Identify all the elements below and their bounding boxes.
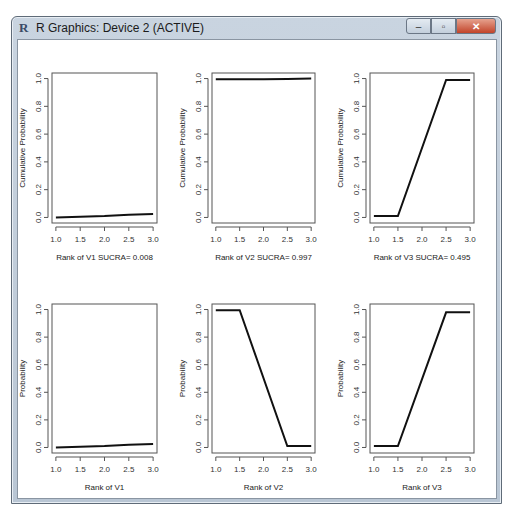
y-tick-label: 1.0 bbox=[34, 72, 43, 84]
y-tick-label: 0.4 bbox=[352, 386, 361, 398]
x-tick-label: 1.5 bbox=[392, 465, 404, 474]
x-axis: 1.01.52.02.53.0 bbox=[368, 457, 476, 474]
y-tick-label: 0.4 bbox=[34, 386, 43, 398]
plot-frame bbox=[212, 73, 315, 223]
plot-panel: 1.01.52.02.53.00.00.20.40.60.81.0Rank of… bbox=[178, 303, 317, 492]
plot-panel: 1.01.52.02.53.00.00.20.40.60.81.0Rank of… bbox=[18, 72, 159, 262]
y-tick-label: 0.0 bbox=[352, 211, 361, 223]
x-tick-label: 2.0 bbox=[416, 235, 428, 244]
x-tick-label: 2.5 bbox=[282, 235, 294, 244]
x-tick-label: 2.5 bbox=[123, 465, 135, 474]
y-tick-label: 0.8 bbox=[34, 100, 43, 112]
x-axis-label: Rank of V3 bbox=[402, 483, 442, 492]
x-tick-label: 1.5 bbox=[234, 235, 246, 244]
data-line bbox=[216, 310, 311, 446]
y-tick-label: 1.0 bbox=[194, 303, 203, 315]
x-tick-label: 1.0 bbox=[50, 465, 62, 474]
y-axis-label: Probability bbox=[18, 360, 27, 397]
x-tick-label: 2.5 bbox=[282, 465, 294, 474]
plot-frame bbox=[52, 304, 157, 453]
y-axis-label: Probability bbox=[336, 360, 345, 397]
x-tick-label: 2.0 bbox=[99, 235, 111, 244]
y-axis-label: Cumulative Probability bbox=[336, 108, 345, 188]
x-tick-label: 3.0 bbox=[465, 235, 477, 244]
y-tick-label: 0.2 bbox=[194, 414, 203, 426]
y-tick-label: 0.8 bbox=[352, 331, 361, 343]
x-tick-label: 1.5 bbox=[234, 465, 246, 474]
x-axis-label: Rank of V1 SUCRA= 0.008 bbox=[56, 253, 153, 262]
plot-panel: 1.01.52.02.53.00.00.20.40.60.81.0Rank of… bbox=[18, 303, 159, 492]
y-axis: 0.00.20.40.60.81.0 bbox=[194, 303, 208, 453]
x-tick-label: 2.5 bbox=[441, 235, 453, 244]
x-tick-label: 2.5 bbox=[441, 465, 453, 474]
y-tick-label: 1.0 bbox=[352, 72, 361, 84]
data-line bbox=[56, 444, 153, 448]
y-tick-label: 0.2 bbox=[194, 184, 203, 196]
y-axis: 0.00.20.40.60.81.0 bbox=[352, 72, 366, 223]
y-tick-label: 0.0 bbox=[194, 441, 203, 453]
y-tick-label: 0.0 bbox=[34, 211, 43, 223]
y-tick-label: 0.8 bbox=[194, 100, 203, 112]
y-tick-label: 0.0 bbox=[352, 441, 361, 453]
x-tick-label: 1.0 bbox=[210, 235, 222, 244]
plot-grid: 1.01.52.02.53.00.00.20.40.60.81.0Rank of… bbox=[0, 0, 510, 517]
y-tick-label: 0.6 bbox=[194, 128, 203, 140]
x-axis-label: Rank of V1 bbox=[85, 483, 125, 492]
x-tick-label: 3.0 bbox=[148, 235, 160, 244]
y-tick-label: 0.0 bbox=[34, 441, 43, 453]
y-tick-label: 0.2 bbox=[34, 184, 43, 196]
y-tick-label: 0.4 bbox=[352, 156, 361, 168]
data-line bbox=[216, 79, 311, 80]
y-tick-label: 0.4 bbox=[34, 156, 43, 168]
x-axis: 1.01.52.02.53.0 bbox=[50, 227, 159, 244]
x-tick-label: 2.5 bbox=[123, 235, 135, 244]
y-tick-label: 0.6 bbox=[34, 359, 43, 371]
x-tick-label: 3.0 bbox=[465, 465, 477, 474]
y-tick-label: 0.6 bbox=[194, 359, 203, 371]
y-tick-label: 0.6 bbox=[352, 359, 361, 371]
y-tick-label: 0.2 bbox=[34, 414, 43, 426]
y-tick-label: 0.6 bbox=[352, 128, 361, 140]
x-tick-label: 1.0 bbox=[368, 235, 380, 244]
data-line bbox=[374, 312, 470, 446]
x-tick-label: 1.5 bbox=[75, 465, 87, 474]
y-tick-label: 0.8 bbox=[34, 331, 43, 343]
y-tick-label: 0.4 bbox=[194, 386, 203, 398]
y-tick-label: 1.0 bbox=[194, 72, 203, 84]
y-axis-label: Cumulative Probability bbox=[178, 108, 187, 188]
x-tick-label: 2.0 bbox=[258, 235, 270, 244]
y-tick-label: 1.0 bbox=[352, 303, 361, 315]
data-line bbox=[56, 214, 153, 217]
y-tick-label: 0.8 bbox=[194, 331, 203, 343]
x-tick-label: 2.0 bbox=[99, 465, 111, 474]
x-axis: 1.01.52.02.53.0 bbox=[368, 227, 476, 244]
y-tick-label: 1.0 bbox=[34, 303, 43, 315]
x-axis-label: Rank of V2 bbox=[244, 483, 284, 492]
y-tick-label: 0.0 bbox=[194, 211, 203, 223]
x-axis-label: Rank of V3 SUCRA= 0.495 bbox=[374, 253, 471, 262]
y-tick-label: 0.2 bbox=[352, 414, 361, 426]
x-tick-label: 3.0 bbox=[306, 465, 318, 474]
x-axis: 1.01.52.02.53.0 bbox=[210, 457, 317, 474]
x-tick-label: 2.0 bbox=[258, 465, 270, 474]
x-axis: 1.01.52.02.53.0 bbox=[50, 457, 159, 474]
y-axis: 0.00.20.40.60.81.0 bbox=[34, 72, 48, 223]
y-axis-label: Probability bbox=[178, 360, 187, 397]
x-tick-label: 3.0 bbox=[148, 465, 160, 474]
x-axis: 1.01.52.02.53.0 bbox=[210, 227, 317, 244]
x-tick-label: 2.0 bbox=[416, 465, 428, 474]
y-axis-label: Cumulative Probability bbox=[18, 108, 27, 188]
plot-panel: 1.01.52.02.53.00.00.20.40.60.81.0Rank of… bbox=[336, 72, 476, 262]
x-tick-label: 1.5 bbox=[75, 235, 87, 244]
plot-panel: 1.01.52.02.53.00.00.20.40.60.81.0Rank of… bbox=[178, 72, 317, 262]
x-tick-label: 1.0 bbox=[210, 465, 222, 474]
y-tick-label: 0.4 bbox=[194, 156, 203, 168]
y-tick-label: 0.6 bbox=[34, 128, 43, 140]
x-tick-label: 1.0 bbox=[50, 235, 62, 244]
x-tick-label: 1.0 bbox=[368, 465, 380, 474]
plot-panel: 1.01.52.02.53.00.00.20.40.60.81.0Rank of… bbox=[336, 303, 476, 492]
x-axis-label: Rank of V2 SUCRA= 0.997 bbox=[215, 253, 312, 262]
plot-frame bbox=[52, 73, 157, 223]
x-tick-label: 3.0 bbox=[306, 235, 318, 244]
y-tick-label: 0.2 bbox=[352, 184, 361, 196]
